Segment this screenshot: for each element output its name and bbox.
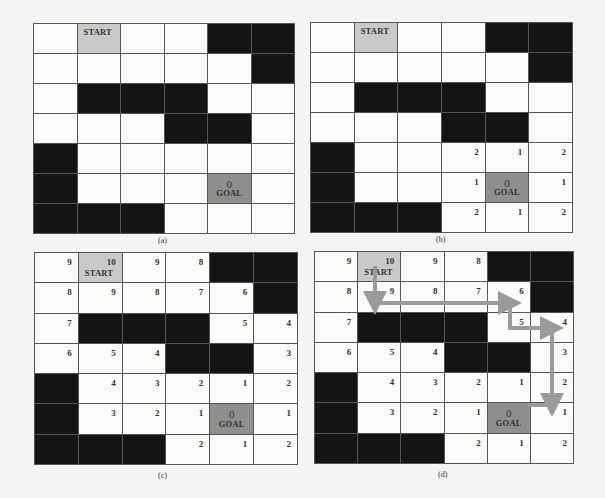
grid-cell: 8 [166, 253, 209, 282]
grid-cell [121, 54, 164, 83]
grid-cell: 2 [442, 143, 485, 172]
grid-cell: 8 [315, 282, 357, 311]
wall-cell [311, 143, 354, 172]
wall-cell [398, 83, 441, 112]
grid-cell [34, 114, 77, 143]
goal-label: GOAL [488, 418, 530, 428]
distance-value: 2 [474, 147, 479, 157]
grid-cell: 3 [358, 403, 400, 432]
start-label: START [85, 268, 113, 278]
goal-cell: 0GOAL [208, 174, 251, 203]
grid-cell: 3 [123, 374, 166, 403]
distance-value: 3 [155, 378, 160, 388]
grid-cell: 3 [401, 373, 443, 402]
distance-value: 4 [390, 377, 395, 387]
distance-value: 9 [67, 257, 72, 267]
distance-value: 8 [433, 286, 438, 296]
grid-cell: 8 [123, 283, 166, 312]
distance-value: 4 [155, 348, 160, 358]
grid-cell [442, 23, 485, 52]
distance-value: 3 [563, 347, 568, 357]
start-label: START [364, 267, 392, 277]
distance-value: 3 [111, 408, 116, 418]
wall-cell [529, 53, 572, 82]
grid-cell [208, 144, 251, 173]
grid-cell [252, 174, 295, 203]
wall-cell [531, 252, 573, 281]
grid-cell: 4 [531, 313, 573, 342]
distance-value: 4 [111, 378, 116, 388]
grid-cell [78, 144, 121, 173]
wall-cell [123, 314, 166, 343]
wall-cell [311, 203, 354, 232]
grid-cell [252, 84, 295, 113]
wall-cell [210, 344, 253, 373]
grid-panel-a: START0GOAL [33, 23, 295, 234]
grid-cell: 2 [442, 203, 485, 232]
grid-cell [355, 113, 398, 142]
grid-cell: 6 [488, 282, 530, 311]
distance-value: 5 [243, 318, 248, 328]
distance-value: 9 [347, 256, 352, 266]
distance-value: 8 [199, 257, 204, 267]
distance-value: 2 [199, 378, 204, 388]
grid-cell: 9 [79, 283, 122, 312]
grid-cell: 1 [529, 173, 572, 202]
grid-cell [165, 204, 208, 233]
grid-cell [121, 24, 164, 53]
grid-cell [252, 204, 295, 233]
panel-caption-d: (d) [438, 470, 447, 479]
grid-cell: 1 [442, 173, 485, 202]
grid-cell: 8 [35, 283, 78, 312]
wall-cell [208, 24, 251, 53]
grid-cell: 9 [358, 282, 400, 311]
distance-value: 8 [347, 286, 352, 296]
wall-cell [121, 204, 164, 233]
grid-cell: 1 [488, 434, 530, 463]
start-cell: 10START [358, 252, 400, 281]
grid-cell: 9 [35, 253, 78, 282]
grid-cell: 3 [531, 343, 573, 372]
panel-caption-b: (b) [436, 235, 445, 244]
grid-cell: 1 [486, 203, 529, 232]
grid-cell: 5 [488, 313, 530, 342]
grid-cell [355, 173, 398, 202]
grid-panel-b: START21210GOAL1212 [310, 22, 573, 233]
distance-value: 6 [347, 347, 352, 357]
grid-cell: 2 [254, 435, 297, 464]
wall-cell [123, 435, 166, 464]
goal-label: GOAL [486, 187, 529, 197]
wall-cell [35, 374, 78, 403]
wall-cell [442, 113, 485, 142]
distance-value: 9 [155, 257, 160, 267]
distance-value: 1 [243, 439, 248, 449]
grid-cell [529, 83, 572, 112]
distance-value: 7 [347, 317, 352, 327]
distance-value: 9 [390, 286, 395, 296]
distance-value: 3 [433, 377, 438, 387]
grid-cell [165, 144, 208, 173]
wall-cell [401, 313, 443, 342]
grid-cell: 1 [445, 403, 487, 432]
distance-value: 3 [286, 348, 291, 358]
wall-cell [401, 434, 443, 463]
grid-cell: 1 [254, 404, 297, 433]
distance-value: 4 [286, 318, 291, 328]
panel-caption-a: (a) [158, 236, 167, 245]
wall-cell [355, 83, 398, 112]
grid-cell [165, 174, 208, 203]
wall-cell [35, 404, 78, 433]
grid-cell: 4 [401, 343, 443, 372]
grid-cell: 3 [79, 404, 122, 433]
wall-cell [488, 252, 530, 281]
grid-cell [165, 24, 208, 53]
grid-cell: 2 [445, 373, 487, 402]
distance-value: 9 [111, 287, 116, 297]
distance-value: 2 [286, 378, 291, 388]
distance-value: 1 [243, 378, 248, 388]
grid-cell [34, 24, 77, 53]
wall-cell [315, 373, 357, 402]
grid-cell [355, 53, 398, 82]
grid-cell [486, 83, 529, 112]
distance-value: 1 [199, 408, 204, 418]
